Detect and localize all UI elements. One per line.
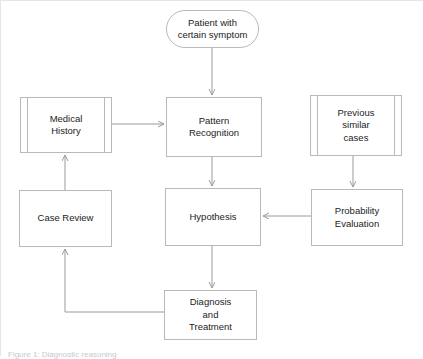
node-case-review[interactable]: Case Review — [19, 190, 112, 247]
node-case-review-label: Case Review — [36, 212, 96, 225]
node-patient-with-symptom[interactable]: Patient with certain symptom — [166, 10, 259, 48]
edge-diagnosis-to-case-review — [65, 249, 164, 312]
node-probability-evaluation[interactable]: Probability Evaluation — [311, 189, 403, 246]
node-medical-history[interactable]: Medical History — [20, 97, 112, 153]
node-probability-evaluation-label: Probability Evaluation — [333, 205, 381, 230]
node-patient-with-symptom-label: Patient with certain symptom — [176, 17, 250, 42]
node-hypothesis-label: Hypothesis — [188, 211, 239, 224]
node-pattern-recognition[interactable]: Pattern Recognition — [166, 97, 262, 157]
figure-caption: Figure 1: Diagnostic reasoning — [8, 350, 117, 359]
node-diagnosis-and-treatment-label: Diagnosis and Treatment — [187, 296, 234, 334]
node-diagnosis-and-treatment[interactable]: Diagnosis and Treatment — [164, 290, 257, 340]
node-previous-similar-cases[interactable]: Previous similar cases — [310, 95, 402, 156]
node-previous-similar-cases-label: Previous similar cases — [336, 107, 377, 145]
node-medical-history-label: Medical History — [48, 113, 85, 138]
node-hypothesis[interactable]: Hypothesis — [165, 188, 261, 246]
node-pattern-recognition-label: Pattern Recognition — [187, 115, 241, 140]
